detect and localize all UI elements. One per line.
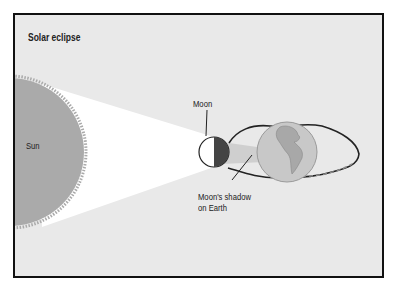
diagram-frame: Solar eclipse Sun Moon Moon's shadow on …: [13, 13, 384, 278]
diagram-title: Solar eclipse: [28, 32, 80, 43]
sun-label: Sun: [26, 141, 40, 152]
moon-icon: [199, 137, 229, 167]
shadow-label-line2: on Earth: [198, 203, 227, 214]
earth-icon: [257, 122, 317, 182]
eclipse-illustration: [15, 15, 382, 276]
moon-label: Moon: [193, 99, 212, 110]
moon-pointer-line: [206, 110, 207, 136]
shadow-label-line1: Moon's shadow: [198, 192, 251, 203]
